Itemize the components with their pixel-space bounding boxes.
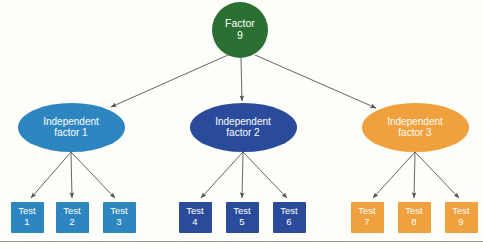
edge-factor-3-to-test-7 bbox=[373, 152, 415, 198]
independent-factor-1-label: Independent factor 1 bbox=[43, 116, 99, 138]
test-3-label: Test 3 bbox=[110, 206, 127, 227]
edge-factor-2-to-test-6 bbox=[243, 152, 287, 198]
test-5-label: Test 5 bbox=[233, 206, 250, 227]
test-7-node[interactable]: Test 7 bbox=[351, 202, 384, 233]
test-1-node[interactable]: Test 1 bbox=[11, 202, 44, 233]
edge-root-to-factor-1 bbox=[111, 55, 228, 107]
test-2-label: Test 2 bbox=[63, 206, 80, 227]
independent-factor-3-label: Independent factor 3 bbox=[387, 116, 443, 138]
test-5-node[interactable]: Test 5 bbox=[226, 202, 259, 233]
independent-factor-2-label: Independent factor 2 bbox=[215, 116, 271, 138]
test-2-node[interactable]: Test 2 bbox=[56, 202, 89, 233]
edge-root-to-factor-3 bbox=[255, 55, 376, 108]
test-3-node[interactable]: Test 3 bbox=[103, 202, 136, 233]
test-7-label: Test 7 bbox=[358, 206, 375, 227]
test-1-label: Test 1 bbox=[18, 206, 35, 227]
test-8-node[interactable]: Test 8 bbox=[398, 202, 431, 233]
edge-factor-3-to-test-9 bbox=[415, 152, 459, 198]
edge-factor-1-to-test-3 bbox=[71, 152, 115, 198]
test-9-label: Test 9 bbox=[452, 206, 469, 227]
test-6-label: Test 6 bbox=[280, 206, 297, 227]
root-factor-node[interactable]: Factor 9 bbox=[212, 2, 268, 58]
independent-factor-3-node[interactable]: Independent factor 3 bbox=[362, 103, 469, 152]
factor-structure-diagram: Factor 9 Independent factor 1 Independen… bbox=[0, 0, 483, 249]
independent-factor-1-node[interactable]: Independent factor 1 bbox=[18, 103, 125, 152]
test-4-label: Test 4 bbox=[186, 206, 203, 227]
root-factor-label: Factor 9 bbox=[225, 18, 255, 42]
test-4-node[interactable]: Test 4 bbox=[179, 202, 212, 233]
edge-factor-1-to-test-2 bbox=[71, 152, 72, 198]
baseline-rule bbox=[0, 241, 483, 242]
edge-factor-3-to-test-8 bbox=[414, 152, 415, 198]
test-8-label: Test 8 bbox=[405, 206, 422, 227]
edge-factor-2-to-test-5 bbox=[242, 152, 243, 198]
edge-factor-2-to-test-4 bbox=[201, 152, 243, 198]
test-9-node[interactable]: Test 9 bbox=[445, 202, 478, 233]
edge-factor-1-to-test-1 bbox=[31, 152, 71, 198]
test-6-node[interactable]: Test 6 bbox=[273, 202, 306, 233]
independent-factor-2-node[interactable]: Independent factor 2 bbox=[190, 103, 297, 152]
edge-root-to-factor-2 bbox=[241, 58, 242, 101]
